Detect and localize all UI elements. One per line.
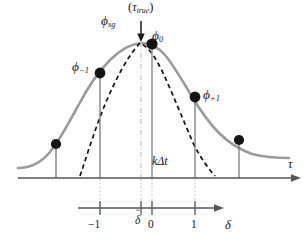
label-phi-0: ϕ0 bbox=[152, 29, 163, 45]
correlation-curve bbox=[18, 43, 289, 168]
label-tau-true: (ˆτtrue) bbox=[128, 1, 153, 15]
tau-axis bbox=[18, 174, 301, 182]
delta-axis bbox=[78, 201, 224, 215]
correlation-peak-diagram: ϕsg (ˆτtrue) ϕ0 ϕ−1 ϕ+1 kΔt τ δ −1 ˆδ 0 … bbox=[0, 0, 307, 249]
marker-phi-minus-2 bbox=[51, 139, 61, 149]
marker-phi-minus-1 bbox=[95, 68, 106, 79]
tick-label-minus-1: −1 bbox=[88, 219, 100, 231]
marker-phi-plus-2 bbox=[234, 135, 244, 145]
marker-phi-plus-1 bbox=[190, 92, 201, 103]
tau-true-arrow bbox=[137, 21, 145, 42]
label-phi-minus-1: ϕ−1 bbox=[72, 60, 89, 76]
delta-axis-arrowhead bbox=[214, 204, 224, 212]
label-tau-axis: τ bbox=[288, 158, 292, 171]
label-phi-sg: ϕsg bbox=[101, 14, 115, 30]
label-delta-axis: δ bbox=[225, 219, 231, 232]
tau-axis-arrowhead bbox=[291, 174, 301, 182]
label-k-delta-t: kΔt bbox=[152, 155, 168, 167]
tick-label-delta-hat: ˆδ bbox=[135, 215, 140, 227]
tick-label-zero: 0 bbox=[148, 219, 154, 231]
label-phi-plus-1: ϕ+1 bbox=[203, 88, 220, 104]
drop-lines bbox=[100, 179, 195, 207]
tick-label-one: 1 bbox=[191, 219, 197, 231]
